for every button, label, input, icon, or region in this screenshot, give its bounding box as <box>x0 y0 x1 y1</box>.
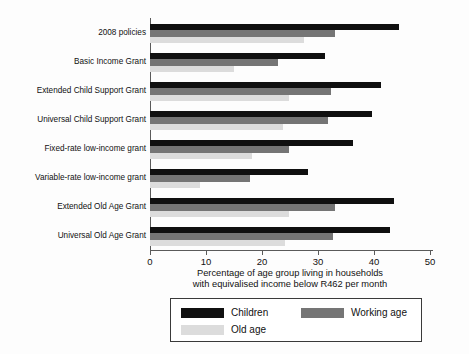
category-label: Universal Child Support Grant <box>0 115 146 124</box>
bar-group <box>150 18 430 47</box>
category-label: Variable-rate low-income grant <box>0 173 146 182</box>
legend-swatch-old-age <box>181 325 224 335</box>
x-tick-mark <box>318 250 319 255</box>
x-tick-label: 0 <box>138 256 162 267</box>
bar-old-age <box>150 211 289 217</box>
bar-old-age <box>150 37 304 43</box>
x-tick-mark <box>374 250 375 255</box>
x-axis-title-line2: with equivalised income below R462 per m… <box>150 279 430 290</box>
bar-group <box>150 134 430 163</box>
legend-label-children: Children <box>231 306 268 320</box>
bar-old-age <box>150 240 285 246</box>
bar-old-age <box>150 95 289 101</box>
category-label: 2008 policies <box>0 28 146 37</box>
bar-group <box>150 47 430 76</box>
bar-group <box>150 76 430 105</box>
plot-area <box>150 18 430 250</box>
x-tick-mark <box>430 250 431 255</box>
x-tick-mark <box>262 250 263 255</box>
x-tick-mark <box>150 250 151 255</box>
chart-legend: Children Working age Old age <box>170 298 422 342</box>
bar-old-age <box>150 182 200 188</box>
bar-old-age <box>150 153 252 159</box>
bar-group <box>150 192 430 221</box>
category-label: Basic Income Grant <box>0 57 146 66</box>
legend-label-old-age: Old age <box>231 323 266 337</box>
x-tick-label: 10 <box>194 256 218 267</box>
category-label: Extended Child Support Grant <box>0 86 146 95</box>
x-tick-label: 20 <box>250 256 274 267</box>
x-tick-label: 50 <box>418 256 442 267</box>
x-axis-title: Percentage of age group living in househ… <box>150 268 430 290</box>
x-axis-title-line1: Percentage of age group living in househ… <box>197 268 383 278</box>
bar-group <box>150 221 430 250</box>
bar-group <box>150 163 430 192</box>
category-label: Fixed-rate low-income grant <box>0 144 146 153</box>
bar-old-age <box>150 124 283 130</box>
legend-label-working-age: Working age <box>351 306 407 320</box>
category-label: Extended Old Age Grant <box>0 202 146 211</box>
legend-swatch-children <box>181 308 224 318</box>
category-label: Universal Old Age Grant <box>0 231 146 240</box>
x-tick-label: 30 <box>306 256 330 267</box>
x-tick-mark <box>206 250 207 255</box>
x-axis-line <box>150 250 433 251</box>
bar-group <box>150 105 430 134</box>
bar-old-age <box>150 66 234 72</box>
bar-chart-figure: 2008 policiesBasic Income GrantExtended … <box>0 0 469 354</box>
legend-swatch-working-age <box>301 308 344 318</box>
x-tick-label: 40 <box>362 256 386 267</box>
